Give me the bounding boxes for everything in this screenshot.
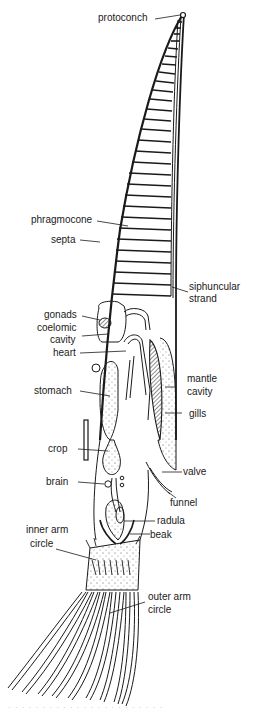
- label-heart: heart: [53, 347, 76, 359]
- label-beak: beak: [150, 529, 172, 541]
- label-outer-arm-circle-line2: circle: [148, 604, 171, 616]
- outer-arms: [8, 592, 139, 706]
- label-mantle-cavity-line1: mantle: [187, 373, 217, 385]
- gonads-shape: [99, 318, 111, 328]
- figure-caption-cutoff: · · · · · · · · · · · · · · · · · · · · …: [8, 703, 163, 712]
- label-inner-arm-circle-line1: inner arm: [26, 524, 68, 536]
- label-siphuncular-strand-line1: siphuncular: [189, 281, 240, 293]
- label-gonads: gonads: [44, 309, 77, 321]
- label-coelomic-cavity-line2: cavity: [50, 334, 76, 346]
- label-septa: septa: [51, 234, 75, 246]
- label-siphuncular-strand-line2: strand: [189, 293, 217, 305]
- label-gills: gills: [189, 408, 206, 420]
- label-radula: radula: [157, 515, 185, 527]
- label-stomach: stomach: [34, 385, 72, 397]
- label-crop: crop: [48, 443, 67, 455]
- label-inner-arm-circle-line2: circle: [30, 538, 53, 550]
- label-outer-arm-circle-line1: outer arm: [148, 591, 191, 603]
- label-funnel: funnel: [170, 497, 197, 509]
- label-coelomic-cavity-line1: coelomic: [37, 322, 76, 334]
- label-valve: valve: [183, 466, 206, 478]
- anatomy-diagram: [0, 0, 255, 714]
- label-protoconch: protoconch: [98, 12, 147, 24]
- soft-body: [84, 301, 176, 590]
- label-mantle-cavity-line2: cavity: [187, 386, 213, 398]
- label-brain: brain: [46, 476, 68, 488]
- label-phragmocone: phragmocone: [31, 214, 92, 226]
